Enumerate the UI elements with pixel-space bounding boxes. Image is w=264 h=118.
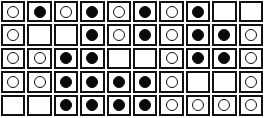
grid-cell[interactable]	[185, 47, 211, 70]
grid-cell[interactable]	[185, 23, 211, 46]
cell-border-box	[27, 1, 51, 22]
cell-border-box	[1, 71, 25, 92]
grid-cell[interactable]	[53, 23, 79, 46]
grid-cell[interactable]	[106, 23, 132, 46]
cell-border-box	[27, 95, 51, 116]
grid-cell[interactable]	[211, 47, 237, 70]
grid-cell[interactable]	[158, 70, 184, 93]
cell-border-box	[239, 48, 263, 69]
cell-border-box	[186, 48, 210, 69]
grid-cell[interactable]	[132, 70, 158, 93]
open-circle-icon	[166, 99, 178, 111]
filled-circle-icon	[139, 76, 151, 88]
open-circle-icon	[166, 29, 178, 41]
grid-cell[interactable]	[211, 0, 237, 23]
grid-cell[interactable]	[26, 23, 52, 46]
grid-cell[interactable]	[158, 47, 184, 70]
cell-border-box	[212, 48, 236, 69]
grid-cell[interactable]	[53, 94, 79, 117]
grid-cell[interactable]	[0, 94, 26, 117]
grid-cell[interactable]	[26, 0, 52, 23]
grid-cell[interactable]	[238, 94, 264, 117]
grid-cell[interactable]	[79, 47, 105, 70]
grid-cell[interactable]	[0, 47, 26, 70]
grid-cell[interactable]	[53, 47, 79, 70]
grid-cell[interactable]	[238, 70, 264, 93]
cell-border-box	[54, 48, 78, 69]
cell-border-box	[159, 95, 183, 116]
cell-border-box	[107, 24, 131, 45]
grid-cell[interactable]	[238, 47, 264, 70]
grid-cell[interactable]	[238, 23, 264, 46]
grid-cell[interactable]	[132, 47, 158, 70]
cell-border-box	[27, 71, 51, 92]
cell-border-box	[1, 95, 25, 116]
cell-border-box	[186, 24, 210, 45]
cell-border-box	[212, 24, 236, 45]
filled-circle-icon	[86, 29, 98, 41]
grid-cell[interactable]	[185, 0, 211, 23]
cell-border-box	[80, 1, 104, 22]
grid-cell[interactable]	[132, 0, 158, 23]
open-circle-icon	[34, 76, 46, 88]
grid-cell[interactable]	[106, 0, 132, 23]
grid-cell[interactable]	[106, 47, 132, 70]
filled-circle-icon	[34, 6, 46, 18]
grid-cell[interactable]	[79, 70, 105, 93]
grid-cell[interactable]	[238, 0, 264, 23]
grid-cell[interactable]	[0, 23, 26, 46]
grid-cell[interactable]	[0, 0, 26, 23]
grid-cell[interactable]	[211, 94, 237, 117]
cell-border-box	[80, 71, 104, 92]
cell-border-box	[239, 95, 263, 116]
grid-cell[interactable]	[185, 70, 211, 93]
open-circle-icon	[192, 99, 204, 111]
grid-cell[interactable]	[79, 0, 105, 23]
grid-cell[interactable]	[53, 70, 79, 93]
grid-cell[interactable]	[106, 70, 132, 93]
cell-border-box	[133, 1, 157, 22]
filled-circle-icon	[139, 6, 151, 18]
grid-cell[interactable]	[26, 47, 52, 70]
open-circle-icon	[7, 52, 19, 64]
grid-cell[interactable]	[26, 94, 52, 117]
cell-border-box	[80, 95, 104, 116]
grid-cell[interactable]	[106, 94, 132, 117]
grid-row	[0, 70, 264, 93]
cell-border-box	[133, 48, 157, 69]
grid-row	[0, 23, 264, 46]
cell-border-box	[107, 48, 131, 69]
grid-cell[interactable]	[79, 23, 105, 46]
grid-cell[interactable]	[53, 0, 79, 23]
grid-cell[interactable]	[158, 0, 184, 23]
grid-cell[interactable]	[185, 94, 211, 117]
grid-cell[interactable]	[211, 70, 237, 93]
open-circle-icon	[166, 6, 178, 18]
open-circle-icon	[166, 76, 178, 88]
filled-circle-icon	[60, 76, 72, 88]
cell-border-box	[107, 1, 131, 22]
grid-cell[interactable]	[211, 23, 237, 46]
filled-circle-icon	[86, 76, 98, 88]
grid-cell[interactable]	[158, 23, 184, 46]
grid-cell[interactable]	[158, 94, 184, 117]
filled-circle-icon	[60, 52, 72, 64]
cell-border-box	[159, 48, 183, 69]
cell-border-box	[239, 71, 263, 92]
filled-circle-icon	[139, 99, 151, 111]
grid-cell[interactable]	[0, 70, 26, 93]
grid-cell[interactable]	[132, 94, 158, 117]
cell-border-box	[1, 24, 25, 45]
cell-border-box	[159, 71, 183, 92]
cell-border-box	[27, 48, 51, 69]
cell-border-box	[159, 1, 183, 22]
grid-cell[interactable]	[79, 94, 105, 117]
cell-border-box	[186, 71, 210, 92]
cell-border-box	[159, 24, 183, 45]
cell-border-box	[107, 71, 131, 92]
open-circle-icon	[113, 29, 125, 41]
open-circle-icon	[245, 52, 257, 64]
grid-cell[interactable]	[26, 70, 52, 93]
open-circle-icon	[245, 29, 257, 41]
grid-cell[interactable]	[132, 23, 158, 46]
